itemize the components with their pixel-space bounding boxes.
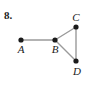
graph-vertex-d (73, 58, 78, 63)
graph-canvas: ABCD (0, 0, 92, 91)
graph-vertex-c (73, 24, 78, 29)
edge-layer (21, 27, 76, 61)
graph-edge-b-c (55, 27, 76, 40)
graph-vertex-label-a: A (17, 43, 25, 55)
graph-vertex-label-c: C (72, 11, 80, 23)
graph-vertex-label-b: B (52, 43, 59, 55)
graph-figure: 8. ABCD (0, 0, 92, 91)
graph-vertex-a (18, 37, 23, 42)
graph-vertex-b (52, 37, 57, 42)
graph-vertex-label-d: D (72, 65, 81, 77)
node-label-layer: ABCD (17, 11, 81, 77)
